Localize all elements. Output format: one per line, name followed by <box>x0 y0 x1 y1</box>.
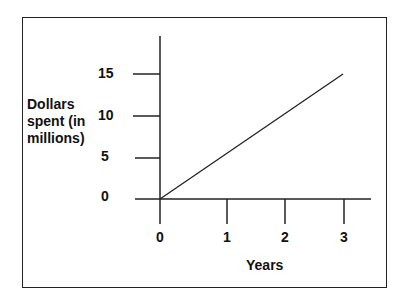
x-axis-label: Years <box>246 257 283 274</box>
y-tick-label-0: 0 <box>101 188 109 205</box>
chart-plot <box>0 0 409 304</box>
data-line <box>160 74 343 199</box>
y-tick-label-5: 5 <box>101 148 109 165</box>
y-axis-label-line1: Dollars <box>27 96 107 113</box>
y-tick-label-15: 15 <box>98 65 114 82</box>
y-axis-label-line2: spent (in <box>27 113 107 130</box>
x-tick-label-1: 1 <box>223 229 231 246</box>
y-axis-label: Dollars spent (in millions) <box>27 96 107 147</box>
x-tick-label-2: 2 <box>281 229 289 246</box>
x-tick-label-0: 0 <box>156 229 164 246</box>
y-axis-label-line3: millions) <box>27 130 107 147</box>
x-tick-label-3: 3 <box>340 229 348 246</box>
